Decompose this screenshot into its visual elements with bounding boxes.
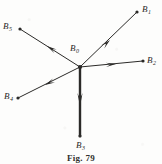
vector-label-b3-subscript: 3 [82, 145, 85, 151]
vector-endpoint-dot-b2 [141, 59, 144, 62]
vector-label-b5-base: B [3, 21, 9, 31]
vector-b1 [80, 10, 139, 67]
vector-shaft-b1 [80, 12, 137, 67]
figure-container: B0B1B2B3B4B5 Fig. 79 [0, 0, 162, 164]
vector-label-b0-subscript: 0 [76, 48, 79, 54]
vector-label-b4-base: B [4, 91, 10, 101]
figure-caption: Fig. 79 [0, 153, 162, 163]
vector-layer [16, 10, 144, 137]
vector-endpoint-dot-b1 [135, 10, 138, 13]
vector-b4 [16, 67, 80, 100]
vector-arrowhead-b5 [46, 44, 57, 53]
vector-endpoint-dot-b4 [16, 96, 19, 99]
origin-point-b0 [78, 65, 82, 69]
vector-label-b5-subscript: 5 [9, 26, 12, 32]
vector-label-b2: B2 [147, 56, 156, 65]
vector-arrowhead-b1 [101, 38, 111, 48]
vector-label-b3: B3 [76, 141, 85, 150]
vector-label-b5: B5 [3, 22, 12, 31]
vector-label-b1-subscript: 1 [148, 9, 151, 15]
vector-label-b3-base: B [76, 140, 82, 150]
vector-label-b4-subscript: 4 [10, 96, 13, 102]
vector-arrowhead-b4 [44, 78, 55, 86]
vector-label-b4: B4 [4, 92, 13, 101]
origin-layer [78, 65, 82, 69]
vector-label-b1: B1 [142, 5, 151, 14]
vector-b3 [77, 67, 82, 138]
vector-label-b2-subscript: 2 [153, 60, 156, 66]
vector-endpoint-dot-b5 [18, 27, 21, 30]
vector-label-b2-base: B [147, 55, 153, 65]
vector-label-b0: B0 [70, 44, 79, 53]
vector-endpoint-dot-b3 [78, 134, 81, 137]
vector-b2 [80, 59, 145, 67]
vector-label-b1-base: B [142, 4, 148, 14]
vector-label-b0-base: B [70, 43, 76, 53]
